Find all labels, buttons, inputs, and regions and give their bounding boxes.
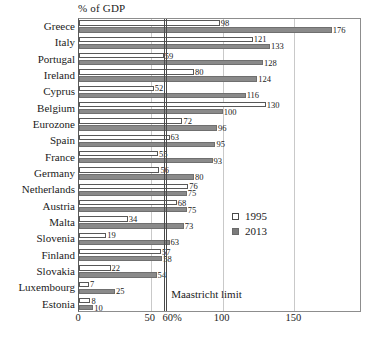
category-label-eurozone: Eurozone — [33, 116, 75, 132]
bar-value-label: 72 — [183, 117, 192, 126]
bar-value-label: 63 — [171, 238, 180, 247]
category-label-germany: Germany — [34, 165, 75, 181]
bar-malta-2013[interactable]: 73 — [79, 223, 184, 228]
bar-value-label: 7 — [90, 280, 94, 289]
bar-netherlands-2013[interactable]: 75 — [79, 191, 187, 196]
bar-belgium-2013[interactable]: 100 — [79, 109, 223, 114]
bar-value-label: 121 — [254, 35, 267, 44]
bar-value-label: 95 — [216, 140, 225, 149]
chart-row: Malta3473 — [79, 215, 360, 231]
bar-ireland-1995[interactable]: 80 — [79, 69, 194, 74]
category-label-slovenia: Slovenia — [37, 230, 76, 246]
bar-value-label: 96 — [218, 124, 227, 133]
bar-france-1995[interactable]: 55 — [79, 151, 158, 156]
bar-value-label: 133 — [271, 42, 284, 51]
bar-slovakia-1995[interactable]: 22 — [79, 265, 111, 270]
chart-legend: 1995 2013 — [232, 209, 267, 239]
bar-cyprus-1995[interactable]: 52 — [79, 86, 154, 91]
category-label-italy: Italy — [55, 34, 75, 50]
bar-finland-2013[interactable]: 58 — [79, 256, 162, 261]
bar-value-label: 130 — [267, 100, 280, 109]
chart-row: Netherlands7675 — [79, 182, 360, 198]
category-label-portugal: Portugal — [38, 51, 75, 67]
bar-finland-1995[interactable]: 57 — [79, 249, 161, 254]
category-label-malta: Malta — [49, 214, 75, 230]
chart-row: Slovakia2254 — [79, 264, 360, 280]
bar-value-label: 93 — [214, 156, 223, 165]
bar-value-label: 75 — [188, 189, 197, 198]
bar-luxembourg-1995[interactable]: 7 — [79, 282, 89, 287]
gdp-debt-bar-chart: % of GDP Greece98176Italy121133Portugal5… — [0, 0, 374, 349]
bar-spain-1995[interactable]: 63 — [79, 135, 170, 140]
category-label-belgium: Belgium — [37, 100, 75, 116]
chart-row: Ireland80124 — [79, 68, 360, 84]
chart-row: Belgium130100 — [79, 101, 360, 117]
chart-row: Cyprus52116 — [79, 84, 360, 100]
bar-malta-1995[interactable]: 34 — [79, 216, 128, 221]
bar-slovakia-2013[interactable]: 54 — [79, 272, 157, 277]
bar-austria-2013[interactable]: 75 — [79, 207, 187, 212]
bar-value-label: 34 — [129, 215, 138, 224]
x-tick-60pct: 60% — [163, 312, 182, 323]
bar-germany-1995[interactable]: 56 — [79, 167, 159, 172]
category-label-finland: Finland — [41, 247, 75, 263]
bar-austria-1995[interactable]: 68 — [79, 200, 177, 205]
bar-value-label: 80 — [195, 68, 204, 77]
category-label-ireland: Ireland — [44, 67, 75, 83]
category-label-cyprus: Cyprus — [43, 83, 75, 99]
bar-value-label: 116 — [247, 91, 259, 100]
bar-value-label: 75 — [188, 205, 197, 214]
bar-italy-2013[interactable]: 133 — [79, 44, 270, 49]
bar-value-label: 19 — [107, 231, 116, 240]
maastricht-limit-line — [164, 19, 167, 311]
bar-value-label: 68 — [178, 198, 187, 207]
bar-portugal-1995[interactable]: 59 — [79, 53, 164, 58]
bar-slovenia-1995[interactable]: 19 — [79, 233, 106, 238]
x-tick-100: 100 — [214, 312, 230, 323]
chart-row: Germany5680 — [79, 166, 360, 182]
bar-value-label: 124 — [258, 75, 271, 84]
plot-area: Greece98176Italy121133Portugal59128Irela… — [78, 18, 361, 312]
bar-ireland-2013[interactable]: 124 — [79, 76, 257, 81]
x-tick-150: 150 — [286, 312, 302, 323]
bar-greece-2013[interactable]: 176 — [79, 27, 332, 32]
bar-value-label: 80 — [195, 173, 204, 182]
category-label-luxembourg: Luxembourg — [18, 279, 75, 295]
bar-value-label: 25 — [116, 287, 125, 296]
bar-cyprus-2013[interactable]: 116 — [79, 93, 246, 98]
category-label-austria: Austria — [43, 198, 75, 214]
bar-value-label: 128 — [264, 58, 277, 67]
bar-value-label: 22 — [112, 264, 121, 273]
bar-germany-2013[interactable]: 80 — [79, 174, 194, 179]
bar-value-label: 52 — [155, 84, 164, 93]
chart-row: Portugal59128 — [79, 52, 360, 68]
bar-value-label: 100 — [224, 107, 237, 116]
bar-spain-2013[interactable]: 95 — [79, 142, 215, 147]
chart-row: Greece98176 — [79, 19, 360, 35]
category-label-france: France — [45, 149, 75, 165]
bar-greece-1995[interactable]: 98 — [79, 20, 220, 25]
bar-belgium-1995[interactable]: 130 — [79, 102, 266, 107]
legend-swatch-1995-icon — [232, 213, 239, 220]
bar-value-label: 63 — [171, 133, 180, 142]
bar-value-label: 98 — [221, 19, 230, 28]
bar-luxembourg-2013[interactable]: 25 — [79, 289, 115, 294]
bar-eurozone-2013[interactable]: 96 — [79, 125, 217, 130]
bar-slovenia-2013[interactable]: 63 — [79, 240, 170, 245]
bar-portugal-2013[interactable]: 128 — [79, 60, 263, 65]
chart-row: Spain6395 — [79, 133, 360, 149]
x-tick-50: 50 — [145, 312, 156, 323]
bar-value-label: 10 — [94, 303, 103, 312]
bar-estonia-2013[interactable]: 10 — [79, 305, 93, 310]
legend-item-2013[interactable]: 2013 — [232, 224, 267, 239]
bar-value-label: 73 — [185, 222, 194, 231]
category-label-estonia: Estonia — [42, 296, 75, 312]
chart-row: Italy121133 — [79, 35, 360, 51]
category-label-greece: Greece — [44, 18, 75, 34]
bar-france-2013[interactable]: 93 — [79, 158, 213, 163]
maastricht-limit-label: Maastricht limit — [171, 288, 242, 300]
bar-netherlands-1995[interactable]: 76 — [79, 184, 188, 189]
legend-item-1995[interactable]: 1995 — [232, 209, 267, 224]
chart-title: % of GDP — [78, 2, 125, 14]
bar-estonia-1995[interactable]: 8 — [79, 298, 90, 303]
